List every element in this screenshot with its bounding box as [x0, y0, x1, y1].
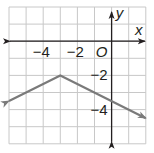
y-axis-label: y [115, 4, 125, 21]
origin-label: O [96, 43, 108, 60]
grid [9, 7, 146, 144]
x-axis-label: x [134, 21, 143, 38]
y-tick-label: −4 [90, 101, 107, 118]
coordinate-graph: x y O −4 −2 −2 −4 [0, 0, 154, 153]
y-tick-label: −2 [90, 66, 107, 83]
x-tick-label: −2 [67, 43, 84, 60]
x-tick-label: −4 [33, 43, 50, 60]
